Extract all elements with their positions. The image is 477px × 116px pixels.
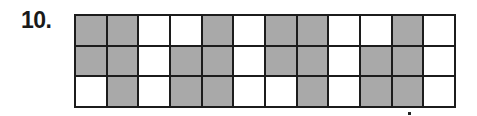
grid-cell-r1-c2 [108, 16, 138, 45]
grid-cell-r1-c12 [424, 16, 454, 45]
grid-cell-r3-c6 [234, 77, 264, 106]
grid-cell-r1-c1 [76, 16, 106, 45]
grid-cell-r3-c4 [171, 77, 201, 106]
grid-cell-r2-c12 [424, 47, 454, 76]
grid-cell-r3-c3 [139, 77, 169, 106]
grid-cell-r2-c3 [139, 47, 169, 76]
grid-cell-r2-c1 [76, 47, 106, 76]
grid-cell-r3-c2 [108, 77, 138, 106]
grid-cell-r3-c10 [361, 77, 391, 106]
grid-cell-r1-c8 [298, 16, 328, 45]
grid-cell-r1-c10 [361, 16, 391, 45]
grid-cell-r1-c6 [234, 16, 264, 45]
grid-cell-r3-c12 [424, 77, 454, 106]
grid-cell-r1-c11 [393, 16, 423, 45]
grid-cell-r1-c9 [329, 16, 359, 45]
grid-cell-r3-c5 [203, 77, 233, 106]
grid-cell-r3-c1 [76, 77, 106, 106]
grid-cell-r2-c11 [393, 47, 423, 76]
grid-cell-r1-c4 [171, 16, 201, 45]
grid-cell-r2-c8 [298, 47, 328, 76]
grid-cell-r3-c11 [393, 77, 423, 106]
grid-cell-r2-c4 [171, 47, 201, 76]
grid-cell-r1-c7 [266, 16, 296, 45]
grid-cell-r1-c3 [139, 16, 169, 45]
grid-cell-r1-c5 [203, 16, 233, 45]
problem-number: 10. [21, 7, 51, 34]
grid-cell-r2-c9 [329, 47, 359, 76]
grid-cell-r2-c10 [361, 47, 391, 76]
grid-cell-r2-c5 [203, 47, 233, 76]
grid-cell-r3-c9 [329, 77, 359, 106]
stray-dot-mark [408, 112, 411, 115]
grid-cell-r3-c8 [298, 77, 328, 106]
grid-cell-r2-c7 [266, 47, 296, 76]
grid-cell-r3-c7 [266, 77, 296, 106]
grid-cell-r2-c6 [234, 47, 264, 76]
shaded-grid [74, 14, 456, 108]
grid-cell-r2-c2 [108, 47, 138, 76]
